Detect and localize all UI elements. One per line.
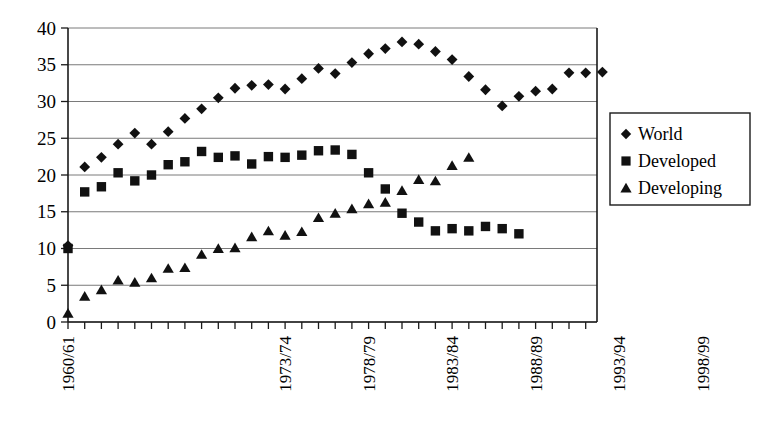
data-point-world — [163, 126, 174, 137]
data-point-world — [363, 48, 374, 59]
data-point-developed — [164, 160, 173, 169]
data-point-developing — [129, 277, 140, 287]
x-tick-label: 1973/74 — [276, 336, 295, 392]
data-point-developed — [214, 153, 223, 162]
data-point-developing — [146, 273, 157, 283]
data-point-developed — [431, 226, 440, 235]
legend-label: Developed — [638, 151, 716, 171]
data-point-developed — [331, 145, 340, 154]
data-point-world — [347, 57, 358, 68]
data-point-developed — [113, 168, 122, 177]
data-point-developing — [413, 174, 424, 184]
data-point-developing — [62, 308, 73, 318]
y-tick-label: 35 — [37, 54, 56, 75]
data-point-developing — [446, 160, 457, 170]
series-developing-markers — [62, 152, 474, 317]
data-point-world — [430, 46, 441, 57]
series-developed-markers — [63, 145, 523, 253]
data-point-world — [413, 39, 424, 50]
data-point-world — [196, 103, 207, 114]
data-point-world — [280, 84, 291, 95]
data-point-developed — [280, 153, 289, 162]
data-point-world — [96, 152, 107, 163]
data-point-world — [564, 67, 575, 78]
data-point-developed — [397, 209, 406, 218]
data-point-developed — [514, 229, 523, 238]
legend-label: World — [638, 124, 683, 144]
data-point-developed — [247, 159, 256, 168]
data-point-developed — [147, 170, 156, 179]
data-point-world — [447, 54, 458, 65]
data-point-world — [530, 86, 541, 97]
x-tick-label: 1960/61 — [59, 336, 78, 392]
data-point-world — [463, 71, 474, 82]
data-point-developed — [230, 151, 239, 160]
x-tick-label: 1978/79 — [360, 336, 379, 392]
data-point-developing — [196, 249, 207, 259]
data-point-world — [246, 80, 257, 91]
data-point-world — [230, 83, 241, 94]
y-axis-tick-labels: 0510152025303540 — [37, 18, 56, 333]
data-point-world — [480, 84, 491, 95]
data-point-developing — [430, 176, 441, 186]
chart-figure: 0510152025303540 1960/611973/741978/7919… — [0, 0, 762, 428]
data-point-developing — [79, 291, 90, 301]
y-axis-ticks — [61, 28, 68, 322]
data-point-developing — [96, 284, 107, 294]
data-point-developing — [179, 262, 190, 272]
data-point-developed — [347, 150, 356, 159]
data-point-world — [514, 91, 525, 102]
x-tick-label: 1998/99 — [694, 336, 713, 392]
data-point-world — [330, 68, 341, 79]
data-point-developing — [330, 208, 341, 218]
data-point-developing — [229, 243, 240, 253]
data-point-world — [263, 79, 274, 90]
data-point-developed — [481, 222, 490, 231]
data-point-developing — [263, 226, 274, 236]
data-point-world — [597, 67, 608, 78]
data-point-world — [296, 73, 307, 84]
data-point-world — [129, 128, 140, 139]
data-point-developing — [396, 185, 407, 195]
data-point-developed — [97, 182, 106, 191]
x-tick-label: 1988/89 — [527, 336, 546, 392]
y-tick-label: 40 — [37, 18, 56, 39]
data-point-developing — [246, 232, 257, 242]
data-point-developing — [380, 197, 391, 207]
data-point-world — [180, 113, 191, 124]
data-point-developed — [447, 224, 456, 233]
data-point-developing — [363, 198, 374, 208]
data-point-world — [146, 139, 157, 150]
data-point-developed — [381, 184, 390, 193]
data-point-developing — [313, 212, 324, 222]
y-tick-label: 30 — [37, 91, 56, 112]
data-point-world — [113, 139, 124, 150]
data-point-developed — [297, 150, 306, 159]
data-point-developing — [346, 204, 357, 214]
y-tick-label: 10 — [37, 238, 56, 259]
data-point-world — [580, 67, 591, 78]
data-point-developing — [463, 152, 474, 162]
x-axis-tick-labels: 1960/611973/741978/791983/841988/891993/… — [59, 336, 713, 392]
x-tick-label: 1983/84 — [443, 336, 462, 392]
data-point-developed — [130, 176, 139, 185]
scatter-plot: 0510152025303540 1960/611973/741978/7919… — [0, 0, 762, 428]
data-point-developed — [414, 217, 423, 226]
data-point-world — [380, 43, 391, 54]
legend-marker-square-icon — [621, 156, 630, 165]
y-tick-label: 20 — [37, 165, 56, 186]
data-point-developed — [180, 157, 189, 166]
y-tick-label: 0 — [47, 312, 57, 333]
data-point-developed — [264, 152, 273, 161]
x-tick-label: 1993/94 — [610, 336, 629, 392]
data-point-world — [397, 37, 408, 48]
chart-legend: WorldDevelopedDeveloping — [610, 113, 750, 205]
data-point-developed — [498, 224, 507, 233]
data-point-developing — [163, 263, 174, 273]
x-axis-ticks — [68, 322, 586, 329]
data-point-developed — [197, 147, 206, 156]
data-point-developed — [464, 226, 473, 235]
data-point-developed — [314, 146, 323, 155]
data-point-world — [79, 162, 90, 173]
data-point-developed — [80, 187, 89, 196]
